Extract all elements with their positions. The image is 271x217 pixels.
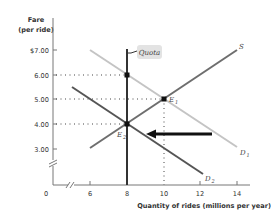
y-tick-7: $7.00 — [30, 47, 49, 55]
e2-label: E 2 — [116, 131, 126, 140]
quota-callout: Quota — [127, 45, 162, 59]
y-tick-4: 4.00 — [34, 121, 49, 129]
equilibrium-point-e1 — [162, 97, 167, 102]
quota-price-point — [125, 73, 130, 78]
svg-text:D: D — [204, 175, 211, 183]
equilibrium-point-e2 — [125, 122, 130, 127]
x-tick-14: 14 — [233, 190, 241, 198]
axes — [49, 18, 250, 188]
x-tick-6: 6 — [88, 190, 92, 198]
y-tick-3: 3.00 — [34, 146, 49, 154]
quota-label: Quota — [139, 49, 160, 57]
svg-text:1: 1 — [175, 99, 178, 105]
demand-curve-d2 — [72, 87, 203, 174]
x-tick-10: 10 — [160, 190, 168, 198]
svg-text:2: 2 — [211, 178, 215, 184]
quota-market-chart: Fare (per ride) $7.00 6.00 5.00 4.00 3.0… — [0, 0, 271, 217]
x-tick-8: 8 — [125, 190, 129, 198]
y-tick-5: 5.00 — [34, 96, 49, 104]
d1-label: D 1 — [239, 149, 250, 158]
demand-shift-arrow-icon — [146, 130, 212, 139]
e1-label: E 1 — [168, 96, 178, 105]
y-axis-title-line2: (per ride) — [18, 26, 53, 34]
svg-text:2: 2 — [122, 134, 126, 140]
supply-label: S — [239, 43, 244, 51]
svg-text:D: D — [239, 149, 246, 157]
x-axis-title: Quantity of rides (millions per year) — [137, 202, 271, 210]
guide-lines — [56, 75, 164, 185]
d2-label: D 2 — [204, 175, 215, 184]
y-tick-6: 6.00 — [34, 72, 49, 80]
svg-text:E: E — [168, 96, 174, 104]
svg-text:E: E — [116, 131, 122, 139]
svg-text:1: 1 — [247, 152, 250, 158]
x-tick-12: 12 — [196, 190, 204, 198]
x-tick-0: 0 — [44, 190, 48, 198]
y-axis-title-line1: Fare — [28, 16, 45, 24]
